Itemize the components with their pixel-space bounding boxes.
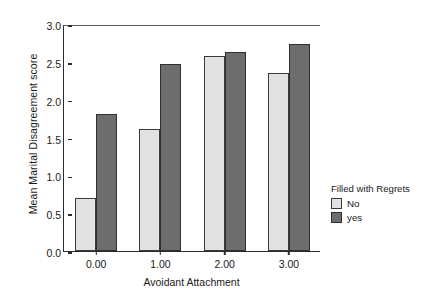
y-axis-tick-label: 1.5 — [46, 134, 64, 146]
x-axis-tick-label: 2.00 — [214, 258, 234, 270]
x-axis-tick-label: 3.00 — [279, 258, 299, 270]
y-axis-tick-label: 1.0 — [46, 171, 64, 183]
y-axis-tick-mark — [68, 214, 72, 216]
x-axis-tick-mark — [95, 251, 97, 255]
y-axis-tick: 1.0 — [46, 171, 64, 183]
bar-no-0.00 — [75, 198, 96, 251]
y-axis-tick: 2.0 — [46, 96, 64, 108]
x-axis-title: Avoidant Attachment — [63, 276, 320, 288]
legend-label-yes: yes — [347, 212, 362, 223]
x-axis-tick-mark — [288, 251, 290, 255]
x-axis-tick: 3.00 — [279, 251, 299, 270]
y-axis-tick-mark — [68, 63, 72, 65]
x-axis-tick: 1.00 — [150, 251, 170, 270]
x-axis-tick: 2.00 — [214, 251, 234, 270]
x-axis-tick: 0.00 — [86, 251, 106, 270]
legend-swatch-yes — [331, 212, 342, 223]
y-axis-tick-label: 2.0 — [46, 96, 64, 108]
bar-no-2.00 — [204, 56, 225, 251]
y-axis-tick: 1.5 — [46, 134, 64, 146]
x-axis-tick-label: 1.00 — [150, 258, 170, 270]
legend-title: Filled with Regrets — [331, 183, 410, 194]
y-axis-tick-label: 0.0 — [46, 247, 64, 259]
y-axis-tick-mark — [68, 101, 72, 103]
y-axis-tick: 0.0 — [46, 247, 64, 259]
bar-no-3.00 — [268, 73, 289, 251]
x-axis-tick-label: 0.00 — [86, 258, 106, 270]
chart-legend: Filled with Regrets Noyes — [331, 183, 410, 227]
bar-yes-3.00 — [289, 44, 310, 251]
y-axis-tick-label: 2.5 — [46, 58, 64, 70]
bar-yes-0.00 — [96, 114, 117, 251]
y-axis-tick-mark — [68, 25, 72, 27]
y-axis-tick: 2.5 — [46, 58, 64, 70]
legend-item-yes: yes — [331, 212, 410, 223]
y-axis-tick: 0.5 — [46, 209, 64, 221]
y-axis-tick-mark — [68, 252, 72, 254]
plot-area: 0.00.51.01.52.02.53.00.001.002.003.00 — [64, 26, 320, 251]
legend-item-no: No — [331, 198, 410, 209]
bar-yes-1.00 — [160, 64, 181, 251]
x-axis-tick-mark — [160, 251, 162, 255]
y-axis-tick: 3.0 — [46, 20, 64, 32]
x-axis-tick-mark — [224, 251, 226, 255]
bar-no-1.00 — [139, 129, 160, 251]
y-axis-title: Mean Marital Disagreement score — [27, 24, 39, 244]
y-axis-tick-label: 3.0 — [46, 20, 64, 32]
bar-chart: Mean Marital Disagreement score 0.00.51.… — [0, 0, 431, 298]
bar-yes-2.00 — [225, 52, 246, 251]
legend-swatch-no — [331, 198, 342, 209]
y-axis-tick-mark — [68, 177, 72, 179]
plot-frame: 0.00.51.01.52.02.53.00.001.002.003.00 — [63, 25, 320, 252]
legend-rows: Noyes — [331, 198, 410, 224]
y-axis-tick-mark — [68, 139, 72, 141]
y-axis-tick-label: 0.5 — [46, 209, 64, 221]
legend-label-no: No — [347, 198, 360, 209]
